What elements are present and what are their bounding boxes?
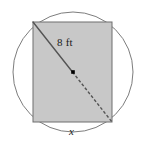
geometry-figure: 8 ft x <box>0 0 146 147</box>
circle-center-dot <box>71 70 75 74</box>
base-length-label: x <box>69 126 74 137</box>
diagonal-length-label: 8 ft <box>57 37 73 48</box>
